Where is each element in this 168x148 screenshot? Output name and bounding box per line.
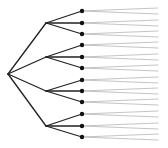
branch-leaf-edge bbox=[46, 80, 82, 91]
terminal-edge-upper bbox=[82, 54, 158, 57]
terminal-edge-upper bbox=[82, 123, 158, 126]
terminal-edge-upper bbox=[82, 88, 158, 91]
branch-leaf-edge bbox=[46, 91, 82, 102]
leaf-node bbox=[80, 43, 84, 47]
leaf-node bbox=[80, 21, 84, 25]
terminal-edge-lower bbox=[82, 57, 158, 60]
terminal-edges bbox=[82, 8, 158, 140]
terminal-edge-lower bbox=[82, 34, 158, 37]
terminal-edge-lower bbox=[82, 102, 158, 105]
leaf-node bbox=[80, 78, 84, 82]
terminal-edge-lower bbox=[82, 91, 158, 94]
terminal-edge-lower bbox=[82, 80, 158, 83]
terminal-edge-lower bbox=[82, 114, 158, 117]
terminal-edge-upper bbox=[82, 8, 158, 11]
leaf-node bbox=[80, 100, 84, 104]
leaf-node bbox=[80, 89, 84, 93]
terminal-edge-upper bbox=[82, 77, 158, 80]
terminal-edge-lower bbox=[82, 137, 158, 140]
root-branch-edge bbox=[8, 23, 46, 74]
leaf-node bbox=[80, 124, 84, 128]
branch-leaf-edge bbox=[46, 57, 82, 68]
terminal-edge-upper bbox=[82, 31, 158, 34]
terminal-edge-lower bbox=[82, 68, 158, 71]
terminal-edge-upper bbox=[82, 42, 158, 45]
leaf-node bbox=[80, 9, 84, 13]
leaf-node bbox=[80, 135, 84, 139]
branch-leaf-edge bbox=[46, 114, 82, 126]
terminal-edge-lower bbox=[82, 126, 158, 129]
terminal-edge-lower bbox=[82, 11, 158, 14]
leaf-nodes bbox=[80, 9, 84, 139]
terminal-edge-upper bbox=[82, 134, 158, 137]
leaf-node bbox=[80, 55, 84, 59]
leaf-node bbox=[80, 112, 84, 116]
terminal-edge-upper bbox=[82, 99, 158, 102]
branch-leaf-edge bbox=[46, 126, 82, 137]
tree-diagram bbox=[0, 0, 168, 148]
terminal-edge-lower bbox=[82, 23, 158, 26]
terminal-edge-upper bbox=[82, 65, 158, 68]
tree-edges bbox=[8, 11, 82, 137]
leaf-node bbox=[80, 66, 84, 70]
branch-leaf-edge bbox=[46, 11, 82, 23]
terminal-edge-upper bbox=[82, 111, 158, 114]
branch-leaf-edge bbox=[46, 45, 82, 57]
terminal-edge-upper bbox=[82, 20, 158, 23]
leaf-node bbox=[80, 32, 84, 36]
branch-leaf-edge bbox=[46, 23, 82, 34]
terminal-edge-lower bbox=[82, 45, 158, 48]
